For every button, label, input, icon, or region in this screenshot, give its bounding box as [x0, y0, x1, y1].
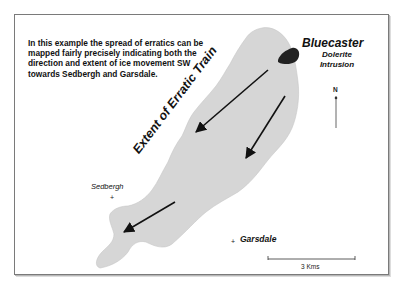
intrusion-type-line2: Intrusion [307, 60, 367, 70]
sedbergh-label: Sedbergh [91, 182, 124, 191]
scale-bar-label: 3 Kms [301, 263, 319, 270]
description-line: towards Sedbergh and Garsdale. [28, 69, 268, 79]
intrusion-type-line1: Dolerite [307, 50, 367, 60]
garsdale-label: Garsdale [240, 234, 276, 244]
description-line: direction and extent of ice movement SW [28, 58, 268, 68]
north-arrow-tip-icon [335, 97, 338, 100]
intrusion-type-label: Dolerite Intrusion [307, 50, 367, 69]
bluecaster-label: Bluecaster [302, 36, 363, 50]
map-description: In this example the spread of erratics c… [28, 38, 268, 79]
garsdale-marker: + [231, 238, 235, 245]
north-label: N [333, 86, 338, 93]
description-line: mapped fairly precisely indicating both … [28, 48, 268, 58]
sedbergh-marker: + [110, 194, 114, 201]
description-line: In this example the spread of erratics c… [28, 38, 268, 48]
